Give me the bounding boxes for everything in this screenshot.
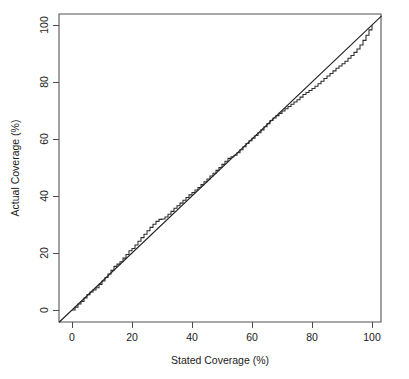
- x-tick-label-60: 60: [246, 331, 258, 343]
- x-tick-label-100: 100: [363, 331, 381, 343]
- calibration-plot-figure: 020406080100 020406080100 Stated Coverag…: [0, 0, 409, 379]
- y-tick-label-60: 60: [38, 133, 50, 145]
- y-tick-label-20: 20: [38, 247, 50, 259]
- x-tick-label-80: 80: [306, 331, 318, 343]
- x-axis-title: Stated Coverage (%): [171, 354, 269, 366]
- x-tick-label-40: 40: [186, 331, 198, 343]
- x-tick-label-0: 0: [69, 331, 75, 343]
- x-tick-label-20: 20: [126, 331, 138, 343]
- y-tick-label-100: 100: [38, 16, 50, 34]
- y-tick-label-80: 80: [38, 76, 50, 88]
- y-axis-title: Actual Coverage (%): [9, 120, 21, 217]
- y-tick-label-40: 40: [38, 190, 50, 202]
- y-tick-label-0: 0: [38, 307, 50, 313]
- plot-canvas: 020406080100 020406080100 Stated Coverag…: [0, 0, 409, 379]
